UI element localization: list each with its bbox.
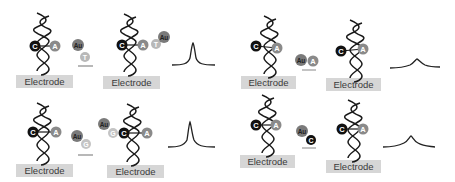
base-a-icon: A <box>142 128 153 139</box>
svg-text:G: G <box>83 141 89 148</box>
panel-bottom-left: C A Au G Au G <box>28 103 216 166</box>
base-c-icon: C <box>117 40 128 51</box>
base-g-icon: G <box>108 128 118 138</box>
base-a-icon: A <box>272 43 283 54</box>
base-c-icon: C <box>337 124 348 135</box>
svg-text:C: C <box>121 129 127 138</box>
svg-text:A: A <box>52 42 58 51</box>
base-a-icon: A <box>138 40 149 51</box>
base-g-icon: G <box>81 139 91 149</box>
base-a-icon: A <box>51 127 62 138</box>
svg-text:A: A <box>274 44 280 53</box>
base-a-icon: A <box>271 120 282 131</box>
weak-peak-signal <box>390 59 440 68</box>
svg-text:A: A <box>53 128 59 137</box>
base-a-icon: A <box>358 124 369 135</box>
strong-peak-signal <box>168 122 215 147</box>
panel-bottom-right: C A Au C C A <box>251 95 436 162</box>
base-a-icon: A <box>358 44 369 55</box>
svg-text:C: C <box>30 128 36 137</box>
diagram-graphics: C A Au T C A <box>0 0 455 182</box>
gold-label-icon: Au <box>296 125 308 137</box>
panel-top-left: C A Au T C A <box>30 13 216 76</box>
svg-text:C: C <box>253 121 259 130</box>
base-c-icon: C <box>336 46 347 57</box>
base-a-icon: A <box>308 56 319 67</box>
svg-text:A: A <box>144 129 150 138</box>
base-t-icon: T <box>80 52 90 62</box>
svg-text:Au: Au <box>74 42 83 49</box>
svg-text:Au: Au <box>100 121 109 128</box>
gold-label-icon: Au <box>295 54 307 66</box>
svg-text:A: A <box>310 57 316 66</box>
svg-text:C: C <box>32 42 38 51</box>
base-c-icon: C <box>28 127 39 138</box>
base-c-icon: C <box>251 120 262 131</box>
svg-text:T: T <box>154 41 159 48</box>
gold-label-icon: Au <box>158 31 170 43</box>
svg-text:A: A <box>360 45 366 54</box>
strong-peak-signal <box>172 43 215 65</box>
svg-text:C: C <box>338 47 344 56</box>
svg-text:Au: Au <box>298 128 307 135</box>
base-c-icon: C <box>251 41 262 52</box>
svg-text:A: A <box>360 125 366 134</box>
gold-label-icon: Au <box>98 118 110 130</box>
diagram-stage: Electrode Electrode Electrode Electrode … <box>0 0 455 182</box>
svg-text:G: G <box>110 130 116 137</box>
svg-text:T: T <box>83 54 88 61</box>
base-a-icon: A <box>50 41 61 52</box>
svg-text:C: C <box>308 137 313 144</box>
base-c-icon: C <box>30 41 41 52</box>
svg-text:Au: Au <box>297 57 306 64</box>
panel-top-right: C A Au A C A <box>251 16 441 82</box>
gold-label-icon: Au <box>72 39 84 51</box>
gold-label-icon: Au <box>71 130 83 142</box>
svg-text:A: A <box>140 41 146 50</box>
svg-text:C: C <box>339 125 345 134</box>
svg-text:C: C <box>253 42 259 51</box>
svg-text:Au: Au <box>160 34 169 41</box>
weak-peak-signal <box>383 136 435 147</box>
svg-text:Au: Au <box>73 133 82 140</box>
base-c-icon: C <box>306 135 316 145</box>
svg-text:C: C <box>119 41 125 50</box>
svg-text:A: A <box>273 121 279 130</box>
base-c-icon: C <box>119 128 130 139</box>
